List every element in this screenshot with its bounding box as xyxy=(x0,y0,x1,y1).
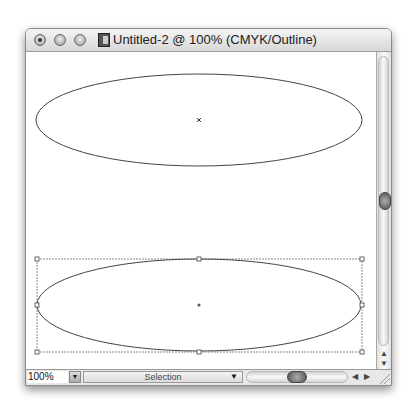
close-button[interactable] xyxy=(34,34,46,46)
artboard-canvas[interactable] xyxy=(26,52,376,370)
window-title: Untitled-2 @ 100% (CMYK/Outline) xyxy=(113,32,317,47)
ellipse-shape-selected[interactable] xyxy=(35,257,364,354)
chevron-down-icon: ▼ xyxy=(230,372,238,382)
vertical-scroll-thumb[interactable] xyxy=(379,192,391,210)
ellipse-shape-top[interactable] xyxy=(36,74,362,166)
center-point-icon xyxy=(198,304,201,307)
zoom-button[interactable] xyxy=(74,34,86,46)
scroll-down-arrow-icon[interactable]: ▼ xyxy=(380,360,388,368)
status-bar: 100% ▼ Selection ▼ ◀ ▶ xyxy=(26,369,391,385)
horizontal-scroll-track[interactable] xyxy=(246,371,348,383)
vertical-scroll-track[interactable] xyxy=(378,56,389,346)
zoom-menu-button[interactable]: ▼ xyxy=(69,371,81,383)
scroll-up-arrow-icon[interactable]: ▲ xyxy=(380,350,388,358)
scroll-right-arrow-icon[interactable]: ▶ xyxy=(364,372,370,381)
resize-grip-icon[interactable] xyxy=(380,374,390,384)
scroll-left-arrow-icon[interactable]: ◀ xyxy=(352,372,358,381)
horizontal-scroll-thumb[interactable] xyxy=(287,371,307,383)
vertical-scrollbar[interactable]: ▲ ▼ xyxy=(376,52,391,370)
status-tool-label: Selection xyxy=(144,372,181,382)
document-window: Untitled-2 @ 100% (CMYK/Outline) xyxy=(25,28,392,386)
minimize-button[interactable] xyxy=(54,34,66,46)
center-point-icon xyxy=(197,118,201,122)
document-icon xyxy=(98,33,110,47)
title-bar[interactable]: Untitled-2 @ 100% (CMYK/Outline) xyxy=(26,29,391,52)
zoom-level-field[interactable]: 100% xyxy=(28,371,68,383)
status-tool-dropdown[interactable]: Selection ▼ xyxy=(83,371,243,383)
